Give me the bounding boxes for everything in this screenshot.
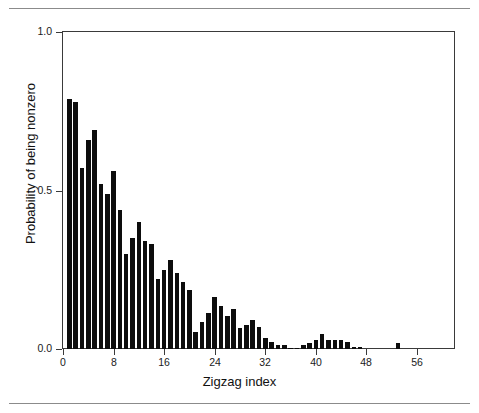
x-axis-tick-label: 24 (195, 357, 235, 368)
bar (168, 260, 173, 349)
bar (320, 334, 325, 349)
x-axis-title: Zigzag index (0, 374, 479, 389)
x-axis-tick-label: 32 (245, 357, 285, 368)
bar (162, 270, 167, 349)
bar (118, 210, 123, 349)
bar (187, 290, 192, 349)
bar (86, 140, 91, 349)
x-axis-tick (366, 349, 367, 355)
bar (130, 238, 135, 349)
bar (225, 316, 230, 349)
y-axis-tick-label: 0.0 (4, 343, 52, 354)
figure-bottom-rule (9, 403, 470, 404)
x-axis-tick (63, 349, 64, 355)
bar (73, 102, 78, 349)
bar (352, 347, 357, 349)
bar (231, 309, 236, 349)
x-axis-tick-label: 56 (397, 357, 437, 368)
bar (307, 343, 312, 349)
bar (105, 194, 110, 349)
x-axis-tick-label: 8 (94, 357, 134, 368)
bar (175, 273, 180, 349)
x-axis-tick (114, 349, 115, 355)
bar (67, 99, 72, 349)
bar (219, 306, 224, 349)
bar-series (63, 32, 455, 349)
x-axis-tick-label: 40 (296, 357, 336, 368)
bar (314, 340, 319, 350)
y-axis-title: Probability of being nonzero (23, 14, 38, 314)
bar (193, 332, 198, 349)
bar (396, 343, 401, 349)
bar (156, 279, 161, 349)
bar (200, 322, 205, 349)
x-axis-tick-label: 48 (346, 357, 386, 368)
y-axis-tick-label: 1.0 (4, 26, 52, 37)
x-axis-tick (316, 349, 317, 355)
bar (276, 345, 281, 349)
y-axis-tick-label: 0.5 (4, 185, 52, 196)
figure-container: Probability of being nonzero 0.00.51.0 0… (0, 0, 479, 413)
bar (263, 338, 268, 349)
y-axis-tick (56, 349, 62, 350)
bar (326, 340, 331, 349)
bar (339, 340, 344, 349)
bar (295, 348, 300, 349)
bar (206, 313, 211, 349)
x-axis-tick-label: 0 (43, 357, 83, 368)
bar (288, 348, 293, 349)
bar (358, 347, 363, 349)
bar (149, 244, 154, 349)
bar (301, 345, 306, 349)
bar (92, 130, 97, 349)
bar (99, 184, 104, 349)
x-axis-tick (215, 349, 216, 355)
bar (212, 297, 217, 349)
bar (143, 241, 148, 349)
x-axis-tick (164, 349, 165, 355)
x-axis-tick-label: 16 (144, 357, 184, 368)
bar (80, 168, 85, 349)
bar (282, 345, 287, 349)
bar (238, 328, 243, 349)
bar (181, 282, 186, 349)
bar (257, 327, 262, 349)
bar (345, 342, 350, 349)
bar (269, 342, 274, 349)
bar (111, 171, 116, 349)
bar (137, 222, 142, 349)
bar (124, 254, 129, 349)
figure-top-rule (9, 8, 470, 9)
x-axis-tick (417, 349, 418, 355)
bar (244, 325, 249, 349)
x-axis-tick (265, 349, 266, 355)
bar (333, 340, 338, 349)
bar (250, 320, 255, 349)
